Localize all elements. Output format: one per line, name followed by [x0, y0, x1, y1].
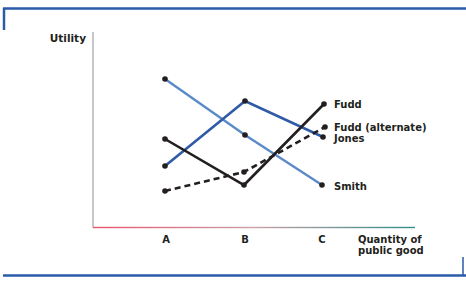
fudd-alt-point-c — [322, 124, 328, 130]
x-tick-b: B — [241, 234, 249, 245]
fudd-alt-point-a — [162, 188, 168, 194]
label-fudd: Fudd — [334, 99, 362, 110]
label-smith: Smith — [334, 181, 367, 192]
smith-point-a — [162, 76, 168, 82]
series-fudd — [162, 101, 327, 188]
x-axis-label-line1: Quantity of — [358, 234, 422, 245]
jones-point-c — [320, 134, 326, 140]
fudd-point-b — [241, 182, 247, 188]
y-axis-label: Utility — [50, 32, 86, 44]
fudd-point-a — [162, 136, 168, 142]
label-fudd-alternate: Fudd (alternate) — [334, 122, 427, 133]
x-tick-a: A — [162, 234, 170, 245]
x-axis — [93, 227, 415, 228]
utility-chart: Utility A B C Quantity of public good Fu… — [0, 0, 466, 283]
fudd-point-c — [321, 101, 327, 107]
fudd-alt-point-b — [241, 169, 247, 175]
label-jones: Jones — [333, 133, 364, 144]
smith-point-b — [242, 132, 248, 138]
x-axis-label-line2: public good — [358, 245, 424, 256]
jones-point-b — [242, 98, 248, 104]
x-tick-c: C — [318, 234, 325, 245]
smith-point-c — [319, 182, 325, 188]
jones-point-a — [162, 163, 168, 169]
